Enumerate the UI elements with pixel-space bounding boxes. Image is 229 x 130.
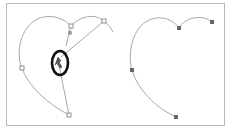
after-panel [130, 17, 214, 119]
handle-line [66, 26, 71, 46]
anchor-point-top-right[interactable] [210, 20, 214, 24]
path-segment-right-lobe [179, 17, 212, 28]
anchor-point-top-middle[interactable] [177, 26, 181, 30]
anchor-point-top-right[interactable] [102, 19, 106, 23]
anchor-point-top-middle[interactable] [69, 24, 73, 28]
anchor-point-left[interactable] [130, 68, 134, 72]
convert-anchor-cursor-icon [55, 57, 62, 68]
anchor-point-bottom[interactable] [67, 113, 71, 117]
before-panel [19, 16, 113, 117]
path-illustration [0, 0, 229, 130]
anchor-point-left[interactable] [20, 66, 24, 70]
path-segment-left-lobe [19, 17, 71, 116]
path-segment-left-lobe [130, 18, 179, 117]
anchor-point-bottom[interactable] [174, 115, 178, 119]
direction-handle-point[interactable] [69, 32, 72, 35]
